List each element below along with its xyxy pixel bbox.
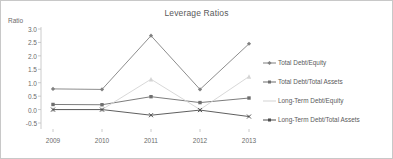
chart-legend: Total Debt/EquityTotal Debt/Total Assets… <box>263 53 391 129</box>
legend-label: Total Debt/Equity <box>278 59 326 66</box>
legend-item[interactable]: Long-Term Debt/Total Assets <box>263 110 391 129</box>
legend-swatch-icon <box>263 59 276 67</box>
legend-item[interactable]: Total Debt/Total Assets <box>263 72 391 91</box>
legend-swatch-icon <box>263 97 276 105</box>
legend-label: Long-Term Debt/Total Assets <box>278 116 360 123</box>
data-point-marker <box>149 77 153 81</box>
legend-item[interactable]: Total Debt/Equity <box>263 53 391 72</box>
series-lines <box>51 34 251 119</box>
legend-swatch-icon <box>263 116 276 124</box>
data-point-marker <box>198 101 201 104</box>
legend-swatch-icon <box>263 78 276 86</box>
data-point-marker <box>247 96 250 99</box>
data-point-marker <box>51 103 54 106</box>
legend-label: Total Debt/Total Assets <box>278 78 343 85</box>
data-point-marker <box>247 74 251 78</box>
data-point-marker <box>149 95 152 98</box>
axis-lines <box>38 27 249 132</box>
legend-item[interactable]: Long-Term Debt/Equity <box>263 91 391 110</box>
legend-label: Long-Term Debt/Equity <box>278 97 343 104</box>
data-point-marker <box>100 103 103 106</box>
chart-figure: Leverage Ratios Ratio 3.02.52.01.51.00.5… <box>0 0 393 159</box>
data-point-marker <box>51 87 55 91</box>
